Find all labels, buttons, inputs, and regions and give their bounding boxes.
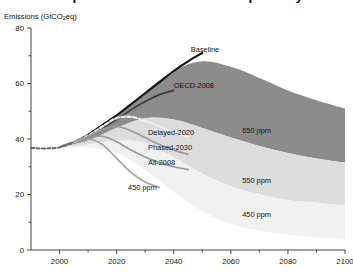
series-label-oecd-2008: OECD-2008 [174, 81, 214, 90]
x-tick-label: 2060 [222, 257, 240, 266]
series-label-phased-2030: Phased-2030 [148, 143, 192, 152]
x-tick-label: 2080 [279, 257, 297, 266]
plot-area: 020406080200020202040206020802100 Baseli… [0, 0, 353, 275]
series-label-all-2008: All-2008 [148, 158, 175, 167]
series-label-450-ppm-line: 450 ppm [128, 183, 157, 192]
y-tick-label: 60 [15, 79, 24, 88]
series-label-delayed-2020: Delayed-2020 [148, 128, 194, 137]
band-label-550-ppm: 550 ppm [242, 176, 271, 185]
x-tick-label: 2100 [336, 257, 353, 266]
x-tick-label: 2040 [165, 257, 183, 266]
y-tick-label: 20 [15, 190, 24, 199]
chart-figure: Comparison of GHG emissions pathways Emi… [0, 0, 353, 275]
x-tick-label: 2020 [108, 257, 126, 266]
x-tick-label: 2000 [51, 257, 69, 266]
y-tick-label: 0 [20, 246, 25, 255]
y-tick-label: 80 [15, 24, 24, 33]
y-tick-label: 40 [15, 135, 24, 144]
band-label-650-ppm: 650 ppm [242, 126, 271, 135]
band-label-450-ppm: 450 ppm [242, 210, 271, 219]
series-label-baseline: Baseline [191, 45, 219, 54]
